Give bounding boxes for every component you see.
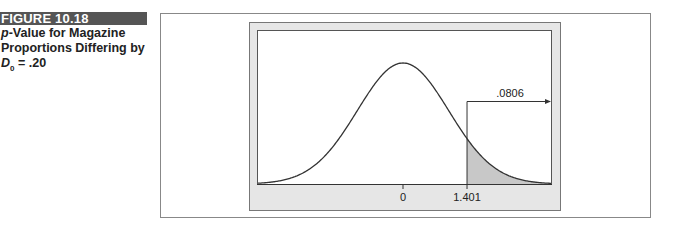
- plot-area: [258, 31, 552, 185]
- p-value-label: .0806: [496, 87, 524, 99]
- tick-label-0: 0: [400, 191, 406, 203]
- tick-label-critical: 1.401: [453, 191, 481, 203]
- normal-curve-chart: .0806 0 1.401: [0, 0, 674, 229]
